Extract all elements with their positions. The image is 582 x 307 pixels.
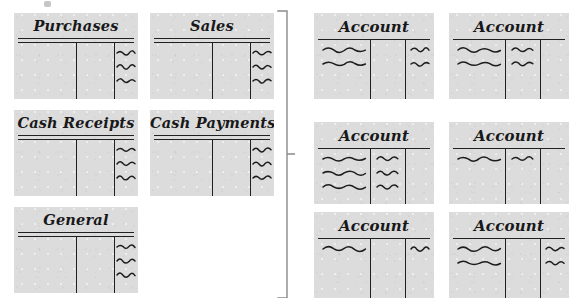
sales-journal-heading-rule	[154, 38, 270, 39]
posting-brace	[277, 10, 295, 298]
ledger-account-3-title: Account	[314, 127, 434, 145]
ledger-account-4-column-rule-2	[540, 149, 541, 204]
purchases-journal-title: Purchases	[14, 17, 138, 34]
sales-journal-column-rule-2	[250, 43, 251, 99]
purchases-journal: Purchases	[14, 13, 138, 99]
cash-payments-journal-column-rule-1	[212, 140, 213, 196]
cash-receipts-journal-heading-rule	[18, 135, 134, 136]
sales-journal-column-rule-1	[212, 43, 213, 99]
cash-payments-journal-heading-rule	[154, 135, 270, 136]
entry-squiggle	[253, 144, 271, 156]
ledger-account-3-column-rule-2	[405, 149, 406, 204]
ledger-account-6-column-rule-1	[505, 239, 506, 298]
ledger-account-2-column-rule-1	[505, 40, 506, 99]
cash-receipts-journal-title: Cash Receipts	[14, 114, 138, 131]
entry-squiggle	[411, 44, 429, 56]
entry-squiggle	[117, 47, 135, 59]
entry-squiggle	[546, 243, 564, 255]
entry-squiggle	[512, 58, 533, 70]
entry-squiggle	[458, 243, 500, 255]
cash-payments-journal-column-rule-2	[250, 140, 251, 196]
entry-squiggle	[377, 181, 398, 193]
entry-squiggle	[411, 58, 429, 70]
ledger-account-6-title: Account	[449, 217, 569, 235]
ledger-account-2-title: Account	[449, 18, 569, 36]
entry-squiggle	[377, 153, 398, 165]
entry-squiggle	[458, 153, 500, 165]
purchases-journal-heading-rule	[18, 38, 134, 39]
entry-squiggle	[323, 44, 365, 56]
purchases-journal-column-rule-1	[76, 43, 77, 99]
entry-squiggle	[253, 61, 271, 73]
ledger-account-5: Account	[314, 212, 434, 298]
entry-squiggle	[377, 167, 398, 179]
ledger-account-6: Account	[449, 212, 569, 298]
entry-squiggle	[117, 172, 135, 184]
general-journal-column-rule-2	[114, 237, 115, 293]
ledger-account-3: Account	[314, 122, 434, 204]
entry-squiggle	[458, 257, 500, 269]
ledger-account-5-column-rule-2	[405, 239, 406, 298]
entry-squiggle	[117, 61, 135, 73]
entry-squiggle	[253, 172, 271, 184]
cash-payments-journal-title: Cash Payments	[150, 114, 274, 131]
entry-squiggle	[253, 47, 271, 59]
entry-squiggle	[117, 75, 135, 87]
ledger-account-1-column-rule-2	[405, 40, 406, 99]
ledger-account-2-heading-rule	[453, 39, 565, 40]
entry-squiggle	[546, 257, 564, 269]
cash-payments-journal: Cash Payments	[150, 110, 274, 196]
sales-journal: Sales	[150, 13, 274, 99]
ledger-account-1-title: Account	[314, 18, 434, 36]
general-journal-title: General	[14, 211, 138, 228]
entry-squiggle	[323, 181, 365, 193]
ledger-account-4-heading-rule	[453, 148, 565, 149]
entry-squiggle	[512, 44, 533, 56]
entry-squiggle	[117, 255, 135, 267]
entry-squiggle	[117, 144, 135, 156]
entry-squiggle	[323, 243, 365, 255]
ledger-account-1-heading-rule	[318, 39, 430, 40]
diagram-canvas: PurchasesSalesCash ReceiptsCash Payments…	[0, 0, 582, 307]
entry-squiggle	[117, 269, 135, 281]
ledger-account-5-title: Account	[314, 217, 434, 235]
ledger-account-6-column-rule-2	[540, 239, 541, 298]
entry-squiggle	[253, 158, 271, 170]
entry-squiggle	[411, 243, 429, 255]
ledger-account-5-heading-rule	[318, 238, 430, 239]
ledger-account-4-title: Account	[449, 127, 569, 145]
cash-receipts-journal-column-rule-2	[114, 140, 115, 196]
entry-squiggle	[458, 58, 500, 70]
ledger-account-4-column-rule-1	[505, 149, 506, 204]
cash-receipts-journal-column-rule-1	[76, 140, 77, 196]
ledger-account-1-column-rule-1	[370, 40, 371, 99]
entry-squiggle	[253, 75, 271, 87]
general-journal-heading-rule	[18, 232, 134, 233]
entry-squiggle	[323, 167, 365, 179]
ledger-account-3-column-rule-1	[370, 149, 371, 204]
entry-squiggle	[512, 153, 533, 165]
ledger-account-6-heading-rule	[453, 238, 565, 239]
ledger-account-3-heading-rule	[318, 148, 430, 149]
entry-squiggle	[117, 158, 135, 170]
general-journal-column-rule-1	[76, 237, 77, 293]
scan-speck	[44, 1, 51, 7]
ledger-account-1: Account	[314, 13, 434, 99]
purchases-journal-column-rule-2	[114, 43, 115, 99]
cash-receipts-journal: Cash Receipts	[14, 110, 138, 196]
ledger-account-2: Account	[449, 13, 569, 99]
ledger-account-5-column-rule-1	[370, 239, 371, 298]
entry-squiggle	[323, 58, 365, 70]
entry-squiggle	[458, 44, 500, 56]
sales-journal-title: Sales	[150, 17, 274, 34]
ledger-account-4: Account	[449, 122, 569, 204]
general-journal: General	[14, 207, 138, 293]
entry-squiggle	[117, 241, 135, 253]
ledger-account-2-column-rule-2	[540, 40, 541, 99]
entry-squiggle	[323, 153, 365, 165]
